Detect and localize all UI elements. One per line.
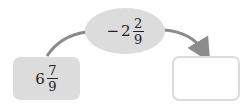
start-whole: 6 xyxy=(35,70,45,88)
operation-sign: − xyxy=(106,22,119,40)
operation-numerator: 2 xyxy=(134,17,142,30)
start-fraction: 7 9 xyxy=(47,64,58,93)
result-answer-box[interactable] xyxy=(172,56,240,101)
operation-denominator: 9 xyxy=(134,33,142,46)
start-numerator: 7 xyxy=(48,64,56,77)
operation-ellipse: − 2 2 9 xyxy=(85,8,165,54)
start-mixed-number: 6 7 9 xyxy=(35,64,58,93)
start-value-box: 6 7 9 xyxy=(13,57,80,100)
start-denominator: 9 xyxy=(48,80,56,93)
operation-fraction: 2 9 xyxy=(133,17,144,46)
arrow-out xyxy=(164,30,204,52)
arrow-in xyxy=(47,32,86,56)
operation-mixed-number: − 2 2 9 xyxy=(106,17,143,46)
operation-whole: 2 xyxy=(121,22,131,40)
